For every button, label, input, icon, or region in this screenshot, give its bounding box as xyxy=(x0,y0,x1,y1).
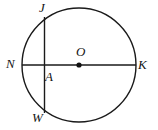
point-label-w: W xyxy=(32,111,43,124)
diagram-canvas xyxy=(0,0,158,130)
point-label-k: K xyxy=(138,58,147,71)
point-label-j: J xyxy=(39,1,45,14)
geometry-figure: J N K W O A xyxy=(0,0,158,130)
point-label-a: A xyxy=(45,70,53,83)
center-point-dot xyxy=(76,62,81,67)
center-label-o: O xyxy=(76,45,85,58)
point-label-n: N xyxy=(6,57,15,70)
